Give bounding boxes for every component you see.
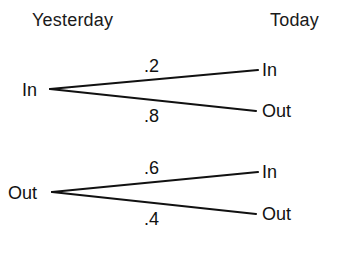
column-header-yesterday: Yesterday xyxy=(32,10,113,31)
source-node-in: In xyxy=(22,80,37,101)
edge-probability-out-to-out: .4 xyxy=(144,209,159,230)
source-node-out: Out xyxy=(8,183,37,204)
transition-diagram: Yesterday Today In Out In Out In Out .2 … xyxy=(0,0,340,255)
edge-probability-in-to-out: .8 xyxy=(144,106,159,127)
target-node-out-from-in: Out xyxy=(262,101,291,122)
target-node-in-from-out: In xyxy=(262,162,277,183)
column-header-today: Today xyxy=(270,10,319,31)
edge-probability-out-to-in: .6 xyxy=(144,158,159,179)
target-node-out-from-out: Out xyxy=(262,204,291,225)
target-node-in-from-in: In xyxy=(262,60,277,81)
edge-probability-in-to-in: .2 xyxy=(144,56,159,77)
